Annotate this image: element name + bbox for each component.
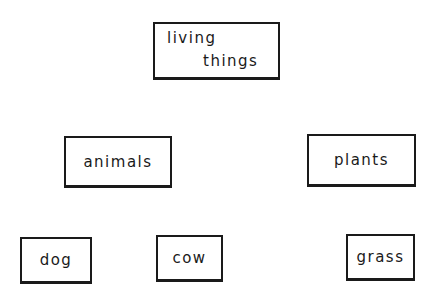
node-label: dog: [40, 251, 73, 269]
node-label-line2: things: [203, 52, 258, 70]
node-grass: grass: [346, 234, 415, 281]
node-cow: cow: [156, 235, 223, 282]
node-label-line1: living: [167, 29, 216, 47]
node-label: plants: [334, 151, 389, 169]
node-label: grass: [356, 248, 404, 266]
node-label: animals: [83, 153, 152, 171]
node-plants: plants: [307, 134, 416, 187]
node-animals: animals: [64, 136, 172, 188]
node-label: cow: [172, 249, 206, 267]
node-dog: dog: [20, 237, 92, 284]
node-living-things: living things: [153, 22, 280, 80]
